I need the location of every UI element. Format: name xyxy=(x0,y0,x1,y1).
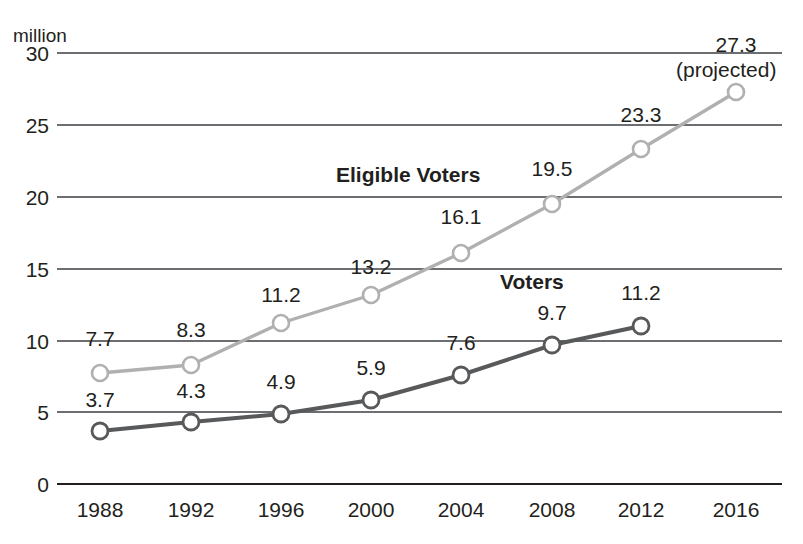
data-point-voters-2008 xyxy=(544,337,560,353)
data-point-voters-1988 xyxy=(92,423,108,439)
x-tick-2000: 2000 xyxy=(326,498,416,522)
y-tick-25: 25 xyxy=(3,114,49,138)
data-point-eligible-2008 xyxy=(544,196,560,212)
data-point-voters-1996 xyxy=(273,406,289,422)
x-tick-2012: 2012 xyxy=(596,498,686,522)
x-tick-2004: 2004 xyxy=(416,498,506,522)
data-point-eligible-1992 xyxy=(183,357,199,373)
value-label-voters-2008: 9.7 xyxy=(522,301,582,325)
value-label-eligible-2012: 23.3 xyxy=(606,103,676,127)
value-label-voters-2012: 11.2 xyxy=(606,281,676,305)
projected-annotation: (projected) xyxy=(676,58,776,82)
value-label-voters-1988: 3.7 xyxy=(70,388,130,412)
data-point-voters-2004 xyxy=(453,367,469,383)
data-point-eligible-2004 xyxy=(453,245,469,261)
value-label-voters-2000: 5.9 xyxy=(341,356,401,380)
value-label-eligible-2000: 13.2 xyxy=(336,255,406,279)
y-tick-20: 20 xyxy=(3,186,49,210)
value-label-eligible-1988: 7.7 xyxy=(70,327,130,351)
data-point-eligible-2016 xyxy=(728,84,744,100)
x-tick-1996: 1996 xyxy=(236,498,326,522)
data-point-eligible-1996 xyxy=(273,315,289,331)
series-label-voters: Voters xyxy=(500,270,564,294)
value-label-eligible-2016: 27.3 xyxy=(701,33,771,57)
y-tick-15: 15 xyxy=(3,258,49,282)
x-tick-2008: 2008 xyxy=(507,498,597,522)
x-tick-1992: 1992 xyxy=(146,498,236,522)
value-label-voters-2004: 7.6 xyxy=(431,331,491,355)
value-label-voters-1992: 4.3 xyxy=(161,379,221,403)
y-tick-0: 0 xyxy=(3,473,49,497)
x-tick-2016: 2016 xyxy=(691,498,781,522)
y-tick-10: 10 xyxy=(3,330,49,354)
value-label-eligible-1996: 11.2 xyxy=(246,283,316,307)
value-label-voters-1996: 4.9 xyxy=(251,370,311,394)
data-point-eligible-2000 xyxy=(363,287,379,303)
data-point-eligible-2012 xyxy=(633,141,649,157)
line-chart: million xyxy=(0,0,803,544)
data-point-voters-2000 xyxy=(363,392,379,408)
value-label-eligible-2004: 16.1 xyxy=(426,205,496,229)
data-point-eligible-1988 xyxy=(92,365,108,381)
series-label-eligible-voters: Eligible Voters xyxy=(336,163,480,187)
x-tick-1988: 1988 xyxy=(55,498,145,522)
y-tick-30: 30 xyxy=(3,42,49,66)
data-point-voters-1992 xyxy=(183,414,199,430)
y-tick-5: 5 xyxy=(3,401,49,425)
value-label-eligible-2008: 19.5 xyxy=(517,157,587,181)
data-point-voters-2012 xyxy=(633,318,649,334)
value-label-eligible-1992: 8.3 xyxy=(161,318,221,342)
